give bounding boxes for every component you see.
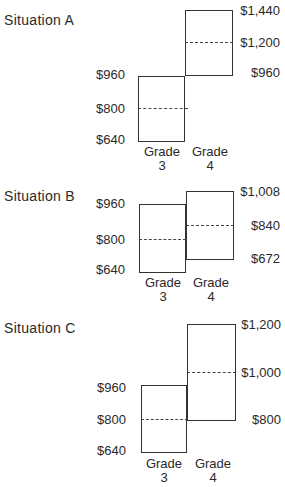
grade-4-axis-label: Grade 4 [189,457,237,485]
situation-c-title: Situation C [4,320,76,336]
grade-3-midpoint-line [139,239,186,240]
grade-4-max-label: $1,440 [220,3,280,18]
grade-3-axis-label: Grade 3 [140,457,188,485]
grade-word: Grade [186,145,234,159]
grade-word: Grade [138,145,186,159]
grade-number: 4 [186,159,234,173]
grade-number: 4 [187,290,235,304]
grade-3-min-label: $640 [66,443,126,458]
grade-4-axis-label: Grade 4 [187,276,235,304]
grade-3-max-label: $960 [65,67,125,82]
grade-3-midpoint-line [138,108,188,109]
grade-4-max-label: $1,200 [221,317,281,332]
grade-word: Grade [189,457,237,471]
grade-3-mid-label: $800 [65,232,125,247]
grade-number: 3 [138,159,186,173]
situation-a-title: Situation A [4,12,74,28]
grade-3-midpoint-line [141,419,188,420]
grade-4-axis-label: Grade 4 [186,145,234,173]
grade-3-range-box [138,76,185,142]
grade-number: 3 [139,290,187,304]
grade-3-mid-label: $800 [66,412,126,427]
grade-4-max-label: $1,008 [220,184,280,199]
grade-4-mid-label: $1,200 [220,35,280,50]
grade-number: 3 [140,471,188,485]
grade-word: Grade [187,276,235,290]
grade-word: Grade [139,276,187,290]
grade-3-axis-label: Grade 3 [139,276,187,304]
grade-3-max-label: $960 [66,380,126,395]
grade-3-axis-label: Grade 3 [138,145,186,173]
grade-3-mid-label: $800 [65,101,125,116]
grade-4-min-label: $800 [221,412,281,427]
grade-3-max-label: $960 [65,196,125,211]
grade-4-min-label: $960 [220,65,280,80]
grade-4-min-label: $672 [220,251,280,266]
grade-word: Grade [140,457,188,471]
grade-4-mid-label: $840 [220,218,280,233]
grade-3-min-label: $640 [65,262,125,277]
grade-number: 4 [189,471,237,485]
grade-4-mid-label: $1,000 [221,365,281,380]
grade-3-min-label: $640 [65,132,125,147]
